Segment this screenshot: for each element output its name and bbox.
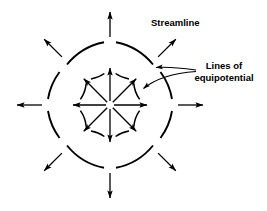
- outer-equipotential-circle: [48, 42, 172, 168]
- inner-streamline-arrow-sw: [84, 108, 107, 131]
- equipotential-label-line2: equipotential: [194, 72, 253, 83]
- equipotential-leader-outer: [156, 67, 196, 70]
- outer-streamline-arrow-sw: [44, 153, 62, 171]
- outer-streamline-arrow-nw: [44, 39, 62, 57]
- equipotential-label-line1: Lines of: [206, 60, 243, 71]
- streamline-label: Streamline: [151, 17, 200, 28]
- inner-streamline-arrow-se: [113, 108, 136, 131]
- outer-streamline-arrows: [17, 12, 203, 198]
- equipotential-leader-inner: [144, 72, 197, 89]
- flow-field-diagram: Streamline Lines of equipotential: [0, 0, 267, 211]
- outer-streamline-arrow-ne: [158, 39, 176, 57]
- inner-streamline-arrows: [73, 68, 147, 142]
- outer-streamline-arrow-se: [158, 153, 176, 171]
- inner-streamline-arrow-nw: [84, 79, 107, 102]
- diagram-canvas: Streamline Lines of equipotential: [0, 0, 267, 211]
- inner-streamline-arrow-ne: [113, 79, 136, 102]
- equipotential-leader-lines: [144, 67, 197, 88]
